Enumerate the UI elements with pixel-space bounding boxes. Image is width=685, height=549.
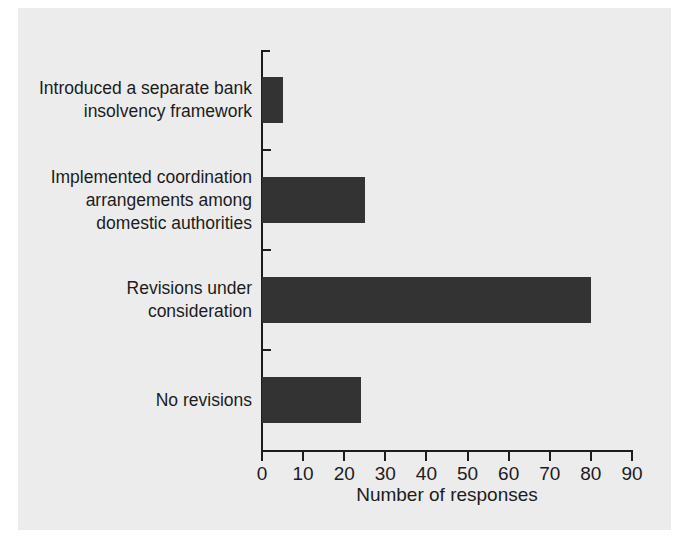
x-axis-line	[261, 450, 633, 452]
x-axis-tick	[261, 452, 263, 461]
bar	[262, 177, 365, 223]
x-axis-tick	[384, 452, 386, 461]
category-label: No revisions	[12, 389, 252, 412]
category-label: Introduced a separate bank insolvency fr…	[12, 77, 252, 123]
chart-figure: Introduced a separate bank insolvency fr…	[18, 8, 671, 530]
x-axis-tick	[343, 452, 345, 461]
plot-area: 0102030405060708090	[262, 50, 632, 450]
x-axis-title: Number of responses	[262, 484, 632, 506]
category-separator-tick	[262, 249, 271, 251]
x-axis-tick	[549, 452, 551, 461]
bar	[262, 77, 283, 123]
category-separator-tick	[262, 149, 271, 151]
category-separator-tick	[262, 349, 271, 351]
x-axis-tick	[425, 452, 427, 461]
x-axis-tick	[508, 452, 510, 461]
x-axis-tick	[302, 452, 304, 461]
x-axis-tick-label: 90	[602, 463, 662, 485]
x-axis-tick	[631, 452, 633, 461]
x-axis-tick	[590, 452, 592, 461]
x-axis-tick	[467, 452, 469, 461]
bar	[262, 377, 361, 423]
category-axis-labels: Introduced a separate bank insolvency fr…	[18, 50, 252, 450]
y-axis-top-cap	[261, 50, 270, 52]
bar	[262, 277, 591, 323]
category-label: Revisions under consideration	[12, 277, 252, 323]
category-label: Implemented coordination arrangements am…	[12, 166, 252, 235]
